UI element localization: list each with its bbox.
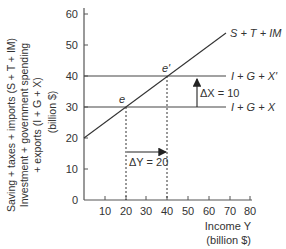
y-tick-label: 60	[66, 8, 78, 20]
series-igx-prime-label: I + G + X'	[231, 70, 278, 82]
x-tick-label: 80	[244, 205, 256, 217]
y-label-line-3: + exports (I + G + X)	[31, 77, 43, 172]
y-label-line-4: (billion $)	[46, 91, 58, 134]
x-tick-label: 10	[99, 205, 111, 217]
y-tick-label: 0	[72, 194, 78, 206]
point-e-prime-label: e'	[162, 62, 171, 74]
x-tick-label: 30	[140, 205, 152, 217]
series-igx-label: I + G + X	[231, 101, 276, 113]
y-tick-label: 20	[66, 132, 78, 144]
chart: 0 10 20 30 40 50 60 10 20 30 40 50 60 70…	[0, 0, 286, 249]
x-tick-label: 20	[120, 205, 132, 217]
x-axis-unit: (billion $)	[206, 234, 251, 246]
y-axis-label: Saving + taxes + imports (S + T + IM) In…	[5, 38, 58, 212]
delta-y-label: ΔY = 20	[129, 156, 168, 168]
x-axis-label: Income Y	[205, 220, 252, 232]
x-tick-label: 40	[161, 205, 173, 217]
delta-x-label: ΔX = 10	[200, 87, 239, 99]
series-stim-line	[84, 33, 226, 138]
y-tick-label: 10	[66, 163, 78, 175]
x-tick-label: 50	[182, 205, 194, 217]
y-label-line-2: Investment + government spending	[18, 43, 30, 207]
x-tick-label: 60	[203, 205, 215, 217]
y-tick-label: 50	[66, 39, 78, 51]
y-tick-label: 30	[66, 101, 78, 113]
x-tick-label: 70	[224, 205, 236, 217]
x-tick-labels: 10 20 30 40 50 60 70 80	[99, 205, 256, 217]
y-tick-label: 40	[66, 70, 78, 82]
y-label-line-1: Saving + taxes + imports (S + T + IM)	[5, 38, 17, 212]
series-stim-label: S + T + IM	[230, 27, 282, 39]
y-tick-labels: 0 10 20 30 40 50 60	[66, 8, 78, 206]
point-e-label: e	[119, 93, 125, 105]
